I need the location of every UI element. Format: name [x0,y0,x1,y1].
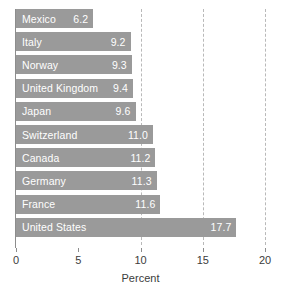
bar-category-label: Germany [22,175,66,186]
x-axis-title-label: Percent [122,272,160,285]
x-tick-label: 0 [13,254,19,267]
bar-category-label: Canada [22,152,59,163]
bar[interactable]: Germany11.3 [16,171,157,190]
gridline-20 [265,9,266,245]
bar-row[interactable]: Italy9.2 [16,32,265,51]
bar-value-label: 17.7 [211,222,232,233]
bar-row[interactable]: Norway9.3 [16,55,265,74]
bar-value-label: 11.0 [128,129,148,140]
bar[interactable]: United Kingdom9.4 [16,79,133,98]
x-tick-mark [141,248,142,252]
bar-value-label: 11.2 [130,152,150,163]
bar-row[interactable]: United Kingdom9.4 [16,79,265,98]
bar-row[interactable]: Japan9.6 [16,102,265,121]
bar-value-label: 9.2 [111,36,126,47]
bar-category-label: United States [22,222,86,233]
bar[interactable]: France11.6 [16,195,160,214]
bar-row[interactable]: United States17.7 [16,218,265,237]
bar-category-label: France [22,199,55,210]
x-tick-mark [78,248,79,252]
bar[interactable]: Switzerland11.0 [16,125,153,144]
bar-row[interactable]: Mexico6.2 [16,9,265,28]
bar-row[interactable]: France11.6 [16,195,265,214]
x-axis: 05101520 Percent [0,248,295,289]
bar-row[interactable]: Switzerland11.0 [16,125,265,144]
x-tick-label: 5 [75,254,81,267]
x-tick-label: 20 [259,254,271,267]
bar-category-label: Italy [22,36,42,47]
bar-category-label: United Kingdom [22,83,98,94]
bar[interactable]: Japan9.6 [16,102,136,121]
x-tick-label: 10 [134,254,146,267]
bar-value-label: 11.3 [132,175,152,186]
plot-area: Mexico6.2Italy9.2Norway9.3United Kingdom… [16,9,265,245]
x-tick-mark [265,248,266,252]
bar-row[interactable]: Germany11.3 [16,171,265,190]
bar-category-label: Japan [22,106,51,117]
bar-value-label: 9.6 [116,106,131,117]
bar[interactable]: Mexico6.2 [16,9,93,28]
bar-value-label: 9.3 [112,59,127,70]
x-tick-label: 15 [197,254,209,267]
bar[interactable]: Italy9.2 [16,32,131,51]
x-axis-title: Percent [0,272,295,285]
bar-row[interactable]: Canada11.2 [16,148,265,167]
bar-category-label: Switzerland [22,129,77,140]
x-tick-mark [16,248,17,252]
bar-category-label: Mexico [22,13,56,24]
x-tick-mark [203,248,204,252]
bar-value-label: 11.6 [135,199,155,210]
bar-category-label: Norway [22,59,58,70]
horizontal-bar-chart: Mexico6.2Italy9.2Norway9.3United Kingdom… [0,0,295,289]
bar[interactable]: United States17.7 [16,218,236,237]
bar[interactable]: Norway9.3 [16,55,132,74]
bar[interactable]: Canada11.2 [16,148,155,167]
bar-value-label: 9.4 [113,83,128,94]
bar-value-label: 6.2 [73,13,88,24]
